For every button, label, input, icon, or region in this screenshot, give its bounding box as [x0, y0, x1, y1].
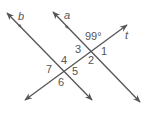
label-b: b — [18, 10, 24, 22]
angle-7-label: 7 — [46, 63, 52, 75]
angle-5-label: 5 — [72, 65, 78, 77]
label-t: t — [125, 29, 129, 41]
angle-6-label: 6 — [58, 76, 64, 88]
angle-1-label: 1 — [101, 45, 107, 57]
angle-3-label: 3 — [75, 43, 81, 55]
angle-2-label: 2 — [88, 54, 94, 66]
parallel-lines-diagram: b a t 99° 1 2 3 4 5 6 7 — [0, 0, 149, 119]
angle-99-label: 99° — [85, 30, 102, 42]
angle-4-label: 4 — [61, 54, 67, 66]
label-a: a — [64, 9, 70, 21]
